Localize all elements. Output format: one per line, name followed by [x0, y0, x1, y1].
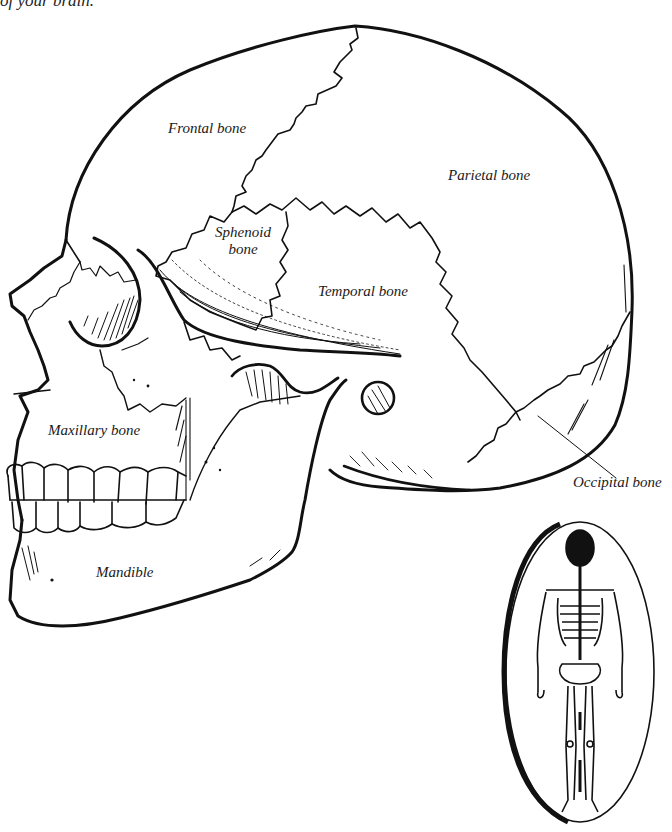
label-occipital-bone: Occipital bone: [573, 474, 662, 491]
label-mandible: Mandible: [96, 564, 154, 581]
skull-illustration: [0, 0, 672, 832]
skeleton-inset: [504, 522, 654, 822]
face-profile: [10, 240, 66, 520]
label-frontal-bone: Frontal bone: [168, 120, 246, 137]
label-maxillary-bone: Maxillary bone: [48, 422, 140, 439]
label-parietal-bone: Parietal bone: [448, 167, 530, 184]
skull-diagram: of your brain.: [0, 0, 672, 832]
zygomatic-ridge: [138, 250, 400, 356]
label-sphenoid-line2: bone: [214, 241, 272, 258]
label-sphenoid-bone: Sphenoid bone: [214, 224, 272, 259]
occipital-leader-line: [538, 416, 616, 478]
inset-skull-highlight: [566, 530, 594, 566]
label-temporal-bone: Temporal bone: [318, 283, 408, 300]
coronal-suture: [232, 28, 358, 212]
eye-socket: [70, 238, 140, 346]
upper-teeth: [7, 462, 186, 504]
mandible-outline: [10, 380, 346, 626]
cranium-outline: [66, 26, 632, 491]
squamous-suture: [232, 198, 520, 420]
label-sphenoid-line1: Sphenoid: [214, 224, 272, 241]
lower-teeth: [12, 500, 184, 533]
